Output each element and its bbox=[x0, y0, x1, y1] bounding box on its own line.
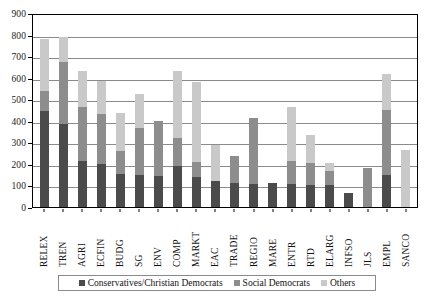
x-label-slot: MARKT bbox=[187, 209, 206, 267]
bar-segment bbox=[154, 176, 163, 207]
x-tick-label: TRADE bbox=[229, 212, 239, 267]
x-label-slot: EMPL bbox=[378, 209, 397, 267]
bar-segment bbox=[40, 91, 49, 111]
chart-legend: Conservatives/Christian DemocratsSocial … bbox=[58, 275, 376, 291]
bar-slot bbox=[396, 15, 415, 207]
bar-slot bbox=[187, 15, 206, 207]
y-axis: 0100200300400500600700800900 bbox=[0, 0, 32, 208]
bar-segment bbox=[382, 175, 391, 207]
bar-segment bbox=[306, 163, 315, 186]
bar-segment bbox=[401, 150, 410, 207]
x-label-slot: REGIO bbox=[244, 209, 263, 267]
bar-slot bbox=[301, 15, 320, 207]
bar-segment bbox=[230, 183, 239, 207]
stacked-bar bbox=[287, 107, 296, 207]
bar-segment bbox=[173, 138, 182, 166]
x-tick-label: TREN bbox=[58, 212, 68, 267]
stacked-bar bbox=[173, 71, 182, 207]
bar-segment bbox=[211, 181, 220, 207]
x-tick-label: ELARG bbox=[325, 212, 335, 267]
x-tick-label: ENV bbox=[153, 212, 163, 267]
bar-segment bbox=[325, 185, 334, 207]
y-tick-label: 900 bbox=[11, 9, 26, 19]
bar-segment bbox=[344, 193, 353, 207]
y-tick-label: 0 bbox=[21, 203, 26, 213]
x-label-slot: ECFIN bbox=[91, 209, 110, 267]
x-tick-label: MARKT bbox=[191, 212, 201, 267]
bar-segment bbox=[59, 37, 68, 62]
bar-segment bbox=[97, 164, 106, 207]
legend-swatch-icon bbox=[79, 280, 85, 286]
x-tick-label: EAC bbox=[210, 212, 220, 267]
bar-segment bbox=[192, 162, 201, 177]
bar-slot bbox=[206, 15, 225, 207]
x-label-slot: COMP bbox=[168, 209, 187, 267]
bar-segment bbox=[363, 168, 372, 207]
bar-segment bbox=[40, 111, 49, 207]
bar-segment bbox=[173, 166, 182, 207]
bar-segment bbox=[116, 113, 125, 151]
x-label-slot: EAC bbox=[206, 209, 225, 267]
legend-label: Social Democrats bbox=[243, 278, 310, 288]
stacked-bar-chart: 0100200300400500600700800900 RELEXTRENAG… bbox=[0, 0, 430, 297]
y-tick-label: 800 bbox=[11, 31, 26, 41]
legend-item: Conservatives/Christian Democrats bbox=[79, 278, 223, 288]
x-tick-label: AGRI bbox=[77, 212, 87, 267]
bar-segment bbox=[287, 107, 296, 161]
x-label-slot: RTD bbox=[301, 209, 320, 267]
stacked-bar bbox=[211, 145, 220, 208]
bar-segment bbox=[173, 71, 182, 138]
stacked-bar bbox=[154, 121, 163, 207]
stacked-bar bbox=[344, 193, 353, 207]
x-tick-label: REGIO bbox=[249, 212, 259, 267]
bar-segment bbox=[249, 118, 258, 185]
y-tick-label: 200 bbox=[11, 160, 26, 170]
bar-slot bbox=[54, 15, 73, 207]
x-tick-label: JLS bbox=[363, 212, 373, 267]
x-label-slot: JLS bbox=[359, 209, 378, 267]
bar-segment bbox=[192, 82, 201, 162]
bar-segment bbox=[287, 161, 296, 185]
bar-slot bbox=[339, 15, 358, 207]
x-label-slot: ELARG bbox=[320, 209, 339, 267]
bar-slot bbox=[225, 15, 244, 207]
bar-segment bbox=[249, 184, 258, 207]
bar-segment bbox=[230, 156, 239, 183]
x-label-slot: TRADE bbox=[225, 209, 244, 267]
bar-segment bbox=[382, 74, 391, 110]
stacked-bar bbox=[268, 183, 277, 207]
legend-label: Others bbox=[330, 278, 355, 288]
x-label-slot: TREN bbox=[53, 209, 72, 267]
x-label-slot: SG bbox=[129, 209, 148, 267]
bar-slot bbox=[358, 15, 377, 207]
x-label-slot: MARE bbox=[263, 209, 282, 267]
x-tick-label: BUDG bbox=[115, 212, 125, 267]
bar-slot bbox=[130, 15, 149, 207]
y-tick-label: 100 bbox=[11, 181, 26, 191]
stacked-bar bbox=[192, 82, 201, 207]
y-tick-label: 500 bbox=[11, 95, 26, 105]
legend-swatch-icon bbox=[321, 280, 327, 286]
bar-segment bbox=[59, 124, 68, 207]
x-axis: RELEXTRENAGRIECFINBUDGSGENVCOMPMARKTEACT… bbox=[32, 209, 418, 267]
bar-segment bbox=[135, 175, 144, 207]
bar-segment bbox=[268, 183, 277, 207]
bar-slot bbox=[282, 15, 301, 207]
legend-item: Social Democrats bbox=[234, 278, 310, 288]
bar-segment bbox=[135, 94, 144, 128]
bar-segment bbox=[116, 174, 125, 207]
stacked-bar bbox=[97, 81, 106, 207]
bar-slot bbox=[377, 15, 396, 207]
y-tick-label: 400 bbox=[11, 117, 26, 127]
legend-item: Others bbox=[321, 278, 355, 288]
x-tick-label: ENTR bbox=[287, 212, 297, 267]
stacked-bar bbox=[325, 163, 334, 207]
bar-segment bbox=[325, 171, 334, 185]
stacked-bar bbox=[40, 39, 49, 207]
bar-segment bbox=[154, 121, 163, 176]
bar-slot bbox=[320, 15, 339, 207]
x-tick-label: RTD bbox=[306, 212, 316, 267]
x-label-slot: SANCO bbox=[397, 209, 416, 267]
legend-swatch-icon bbox=[234, 280, 240, 286]
bar-segment bbox=[306, 185, 315, 207]
